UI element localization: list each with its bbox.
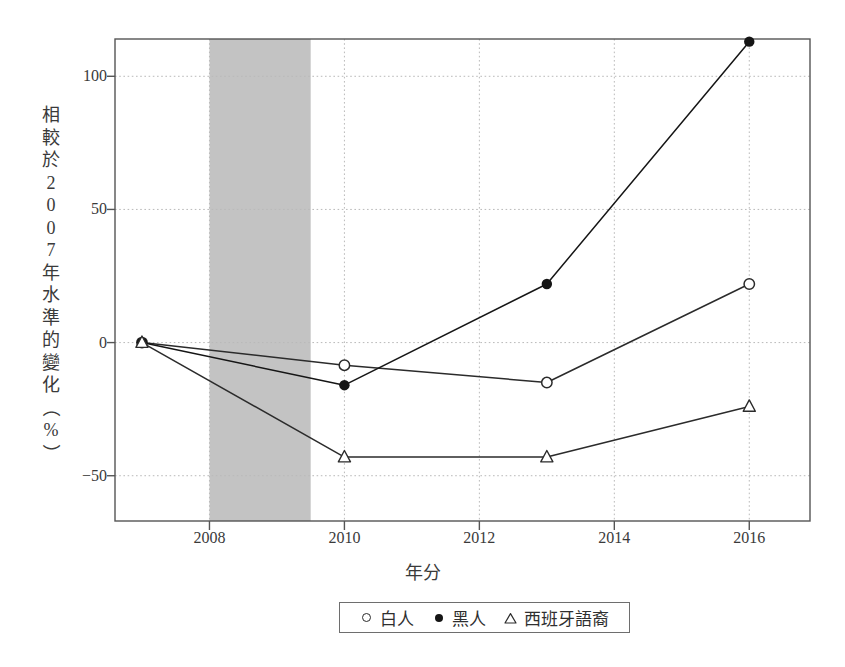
filled-circle-icon [435, 614, 443, 622]
legend-entry-3[interactable]: 西班牙語裔 [495, 605, 618, 630]
legend-label: 西班牙語裔 [524, 605, 609, 630]
x-tick-label: 2008 [174, 529, 244, 547]
open-circle-icon [362, 613, 371, 622]
legend-label: 黑人 [452, 605, 486, 630]
x-tick-label: 2016 [714, 529, 784, 547]
open-triangle-icon [504, 612, 517, 625]
x-tick-label: 2010 [309, 529, 379, 547]
legend-entry-2[interactable]: 黑人 [423, 605, 495, 630]
x-tick-label: 2014 [579, 529, 649, 547]
legend-filled-circle-icon [432, 611, 445, 624]
chart-legend: 白人黑人西班牙語裔 [339, 602, 630, 633]
chart-figure: 相較於2007年水準的變化（%） −50050100 2008201020122… [0, 0, 845, 667]
x-axis-title: 年分 [0, 558, 845, 584]
legend-entry-1[interactable]: 白人 [351, 605, 423, 630]
legend-label: 白人 [380, 605, 414, 630]
legend-open-circle-icon [360, 611, 373, 624]
legend-open-triangle-icon [504, 611, 517, 624]
x-tick-label: 2012 [444, 529, 514, 547]
